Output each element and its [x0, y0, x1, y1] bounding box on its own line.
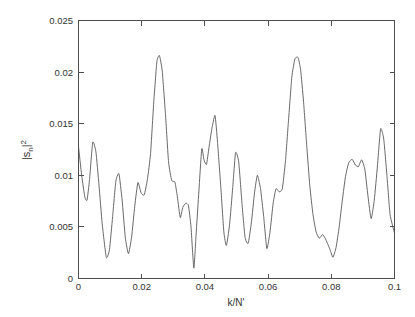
y-tick-label: 0.005: [49, 221, 73, 232]
figure-container: 0 0.02 0.04 0.06 0.08 0.1 0 0.005 0.01 0…: [0, 0, 415, 317]
y-tick-label: 0.015: [49, 118, 73, 129]
x-axis-label: k/N': [228, 297, 245, 308]
y-label-superscript: 2: [19, 139, 28, 144]
y-tick-label: 0: [68, 273, 73, 284]
x-tick-label: 0.02: [132, 281, 151, 292]
y-tick-label: 0.02: [55, 67, 74, 78]
y-tick-label: 0.025: [49, 15, 73, 26]
line-chart: 0 0.02 0.04 0.06 0.08 0.1 0 0.005 0.01 0…: [0, 0, 415, 317]
x-tick-label: 0.1: [388, 281, 401, 292]
x-tick-label: 0: [76, 281, 81, 292]
x-tick-label: 0.06: [259, 281, 278, 292]
y-tick-label: 0.01: [55, 170, 74, 181]
x-tick-label: 0.08: [322, 281, 341, 292]
x-tick-label: 0.04: [196, 281, 215, 292]
